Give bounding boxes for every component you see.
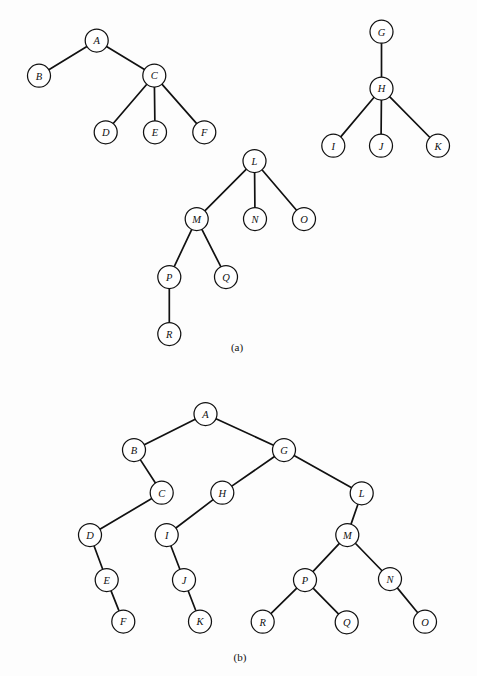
tree-edge-b-c <box>140 460 155 483</box>
tree-edge-n-o <box>397 588 417 613</box>
node-label-a: A <box>201 409 209 420</box>
node-label-d: D <box>85 530 94 541</box>
node-label-p: P <box>165 272 173 283</box>
tree-node-tree-a-1-e[interactable]: E <box>144 121 167 144</box>
tree-node-tree-b-1-m[interactable]: M <box>336 524 359 547</box>
node-label-l: L <box>358 488 365 499</box>
tree-edge-h-i <box>176 500 213 528</box>
tree-node-tree-b-1-b[interactable]: B <box>123 439 146 462</box>
tree-node-tree-a-1-f[interactable]: F <box>193 121 216 144</box>
tree-node-tree-a-1-c[interactable]: C <box>143 64 166 87</box>
tree-node-tree-b-1-h[interactable]: H <box>211 481 234 504</box>
tree-node-tree-a-2-j[interactable]: J <box>370 134 393 157</box>
node-label-h: H <box>218 488 228 499</box>
tree-node-tree-a-2-k[interactable]: K <box>427 134 450 157</box>
tree-edge-c-f <box>162 84 197 124</box>
panel-caption-panel-b: (b) <box>234 651 247 664</box>
tree-edge-g-h <box>232 457 275 487</box>
tree-node-tree-a-2-g[interactable]: G <box>370 20 393 43</box>
tree-node-tree-b-1-q[interactable]: Q <box>335 611 358 634</box>
captions-layer: (a)(b) <box>231 341 247 664</box>
tree-node-tree-a-3-r[interactable]: R <box>158 323 181 346</box>
tree-edge-a-g <box>216 419 274 445</box>
node-label-e: E <box>151 127 159 138</box>
tree-node-tree-a-3-l[interactable]: L <box>243 150 266 173</box>
node-label-b: B <box>36 71 43 82</box>
node-label-k: K <box>195 616 204 627</box>
tree-node-tree-a-1-d[interactable]: D <box>94 121 117 144</box>
tree-node-tree-a-1-b[interactable]: B <box>28 64 51 87</box>
tree-node-tree-b-1-r[interactable]: R <box>251 610 274 633</box>
node-label-o: O <box>300 214 308 225</box>
tree-edge-l-o <box>262 170 297 211</box>
node-label-h: H <box>377 83 387 94</box>
node-label-c: C <box>151 70 159 81</box>
tree-node-tree-b-1-a[interactable]: A <box>194 403 217 426</box>
tree-node-tree-a-1-a[interactable]: A <box>85 29 108 52</box>
tree-node-tree-b-1-n[interactable]: N <box>379 568 402 591</box>
tree-node-tree-a-3-q[interactable]: Q <box>215 266 238 289</box>
node-label-a: A <box>92 35 100 46</box>
node-label-m: M <box>342 530 353 541</box>
node-label-c: C <box>158 488 166 499</box>
tree-edge-h-i <box>341 97 374 137</box>
tree-edge-g-l <box>294 456 352 488</box>
tree-edge-e-f <box>111 591 119 611</box>
tree-edge-h-k <box>390 97 430 138</box>
node-label-g: G <box>280 445 288 456</box>
tree-node-tree-a-3-n[interactable]: N <box>244 208 267 231</box>
nodes-layer: ABCDEFGHIJKLMNOPQRABGCHLDIMEJPNFKRQO <box>28 20 450 634</box>
tree-node-tree-b-1-l[interactable]: L <box>350 482 373 505</box>
node-label-d: D <box>101 127 110 138</box>
tree-node-tree-b-1-g[interactable]: G <box>273 439 296 462</box>
panel-caption-panel-a: (a) <box>231 341 244 354</box>
tree-edge-p-q <box>313 588 339 614</box>
tree-node-tree-b-1-j[interactable]: J <box>173 569 196 592</box>
tree-node-tree-a-3-o[interactable]: O <box>293 208 316 231</box>
forest-binary-tree-diagram: ABCDEFGHIJKLMNOPQRABGCHLDIMEJPNFKRQO (a)… <box>0 0 477 676</box>
node-label-f: F <box>200 127 208 138</box>
tree-node-tree-a-2-h[interactable]: H <box>370 77 393 100</box>
tree-edge-j-k <box>188 591 196 611</box>
node-label-o: O <box>421 617 429 628</box>
tree-node-tree-b-1-f[interactable]: F <box>112 610 135 633</box>
tree-node-tree-b-1-k[interactable]: K <box>189 610 212 633</box>
tree-edge-a-b <box>49 46 87 69</box>
tree-edge-a-c <box>107 46 145 69</box>
tree-edge-m-p <box>174 229 192 266</box>
node-label-i: I <box>331 141 336 152</box>
node-label-l: L <box>251 156 258 167</box>
node-label-q: Q <box>343 617 351 628</box>
tree-node-tree-b-1-i[interactable]: I <box>155 524 178 547</box>
node-label-k: K <box>433 141 442 152</box>
figure-container: ABCDEFGHIJKLMNOPQRABGCHLDIMEJPNFKRQO (a)… <box>0 0 477 676</box>
tree-node-tree-b-1-c[interactable]: C <box>150 481 173 504</box>
tree-node-tree-a-3-p[interactable]: P <box>158 266 181 289</box>
tree-node-tree-a-3-m[interactable]: M <box>185 208 208 231</box>
tree-edge-l-m <box>351 504 358 524</box>
node-label-r: R <box>258 617 266 628</box>
tree-edge-c-d <box>100 499 152 530</box>
node-label-m: M <box>191 214 202 225</box>
tree-edge-a-b <box>144 419 195 445</box>
node-label-n: N <box>385 574 394 585</box>
node-label-e: E <box>102 575 110 586</box>
tree-edge-m-q <box>202 229 221 266</box>
tree-node-tree-b-1-o[interactable]: O <box>414 610 437 633</box>
node-label-q: Q <box>222 272 230 283</box>
tree-edge-d-e <box>94 546 103 569</box>
node-label-r: R <box>165 329 173 340</box>
node-label-b: B <box>131 445 138 456</box>
node-label-f: F <box>119 616 127 627</box>
tree-node-tree-b-1-d[interactable]: D <box>79 524 102 547</box>
tree-edge-l-m <box>205 169 247 211</box>
node-label-p: P <box>301 575 309 586</box>
tree-node-tree-a-2-i[interactable]: I <box>322 134 345 157</box>
node-label-g: G <box>378 27 386 38</box>
node-label-n: N <box>250 214 259 225</box>
tree-edge-p-r <box>271 588 297 614</box>
tree-node-tree-b-1-e[interactable]: E <box>95 569 118 592</box>
tree-edge-m-n <box>355 543 382 571</box>
tree-node-tree-b-1-p[interactable]: P <box>294 569 317 592</box>
tree-edge-m-p <box>313 543 340 571</box>
